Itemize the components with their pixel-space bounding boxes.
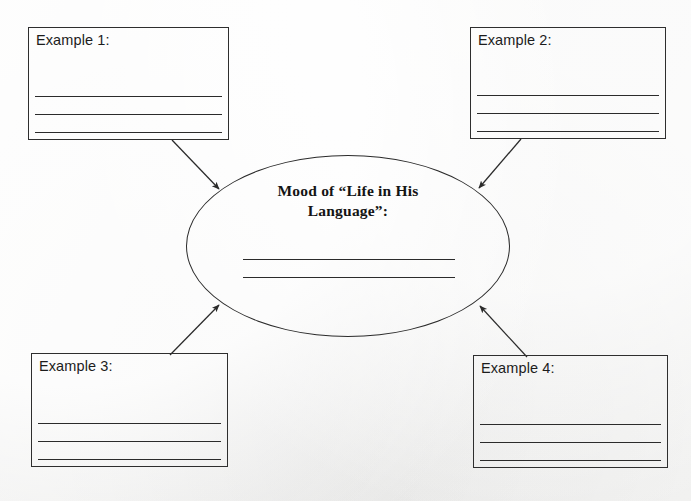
center-ellipse[interactable]: Mood of “Life in His Language”:	[186, 155, 510, 337]
write-line[interactable]	[480, 460, 661, 461]
example-box-1-write-lines[interactable]	[35, 96, 222, 133]
example-box-3-label: Example 3:	[39, 358, 113, 375]
example-box-1[interactable]: Example 1:	[28, 27, 229, 140]
write-line[interactable]	[243, 259, 455, 260]
write-line[interactable]	[480, 442, 661, 443]
example-box-2-label: Example 2:	[478, 32, 552, 49]
center-title-line-1: Mood of “Life in His	[220, 181, 476, 201]
write-line[interactable]	[38, 423, 221, 424]
center-ellipse-write-lines[interactable]	[243, 259, 455, 295]
write-line[interactable]	[477, 113, 659, 114]
graphic-organizer: Example 1: Example 2: Example 3: Example…	[0, 0, 691, 501]
write-line[interactable]	[477, 95, 659, 96]
example-box-4-write-lines[interactable]	[480, 424, 661, 461]
center-title-line-2: Language”:	[220, 201, 476, 221]
write-line[interactable]	[243, 277, 455, 278]
write-line[interactable]	[38, 441, 221, 442]
example-box-3-write-lines[interactable]	[38, 423, 221, 460]
write-line[interactable]	[35, 114, 222, 115]
example-box-4[interactable]: Example 4:	[473, 355, 668, 468]
example-box-2[interactable]: Example 2:	[470, 27, 666, 139]
write-line[interactable]	[38, 459, 221, 460]
write-line[interactable]	[35, 96, 222, 97]
example-box-4-label: Example 4:	[481, 360, 555, 377]
example-box-2-write-lines[interactable]	[477, 95, 659, 132]
example-box-3[interactable]: Example 3:	[31, 353, 228, 467]
center-ellipse-title: Mood of “Life in His Language”:	[220, 181, 476, 221]
write-line[interactable]	[477, 131, 659, 132]
example-box-1-label: Example 1:	[36, 32, 110, 49]
write-line[interactable]	[480, 424, 661, 425]
write-line[interactable]	[35, 132, 222, 133]
